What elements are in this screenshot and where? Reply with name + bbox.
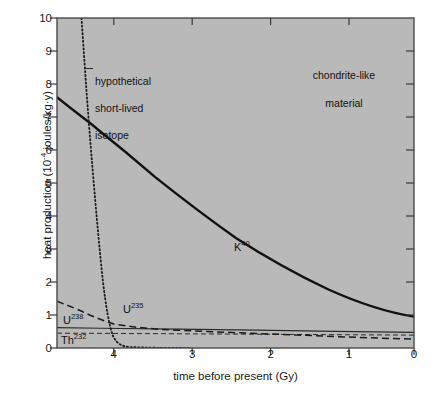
series-label-u235-sup: 235 [131, 301, 144, 310]
annotation-line-1: hypothetical [95, 75, 151, 89]
x-tick-label-group: 4 3 2 1 0 [0, 348, 438, 366]
heat-production-chart: 10 9 8 7 6 5 4 3 2 1 0 4 3 2 1 0 heat pr… [0, 0, 438, 395]
series-label-th232: Th232 [61, 330, 86, 347]
y-tick-label: 10 [32, 12, 52, 24]
series-label-th232-text: Th [61, 334, 74, 346]
annotation-line-2: material [284, 96, 404, 110]
x-tick-label: 0 [402, 348, 426, 360]
annotation-hypothetical-isotope: hypothetical short-lived isotope [95, 61, 151, 156]
series-label-th232-sup: 232 [74, 332, 87, 341]
series-label-u235-text: U [123, 303, 131, 315]
x-tick-label: 3 [180, 348, 204, 360]
y-axis-title-suffix: joules/kg·y) [41, 91, 53, 153]
annotation-line-3: isotope [95, 129, 151, 143]
x-tick-label: 1 [337, 348, 361, 360]
x-axis-title: time before present (Gy) [57, 370, 414, 382]
annotation-line-1: chondrite-like [284, 68, 404, 82]
annotation-chondrite-like-material: chondrite-like material [284, 54, 404, 124]
series-label-k40: K40 [234, 237, 250, 254]
y-axis-title-prefix: heat production (10 [41, 160, 53, 259]
y-axis-title-exponent: -4 [39, 153, 48, 160]
series-label-u238: U238 [63, 310, 83, 327]
series-label-u238-sup: 238 [71, 312, 84, 321]
series-label-k40-sup: 40 [241, 239, 249, 248]
annotation-line-2: short-lived [95, 102, 151, 116]
x-tick-label: 4 [102, 348, 126, 360]
x-tick-label: 2 [259, 348, 283, 360]
y-axis-title: heat production (10-4 joules/kg·y) [39, 25, 53, 325]
series-label-u235: U235 [123, 299, 143, 316]
series-label-u238-text: U [63, 314, 71, 326]
